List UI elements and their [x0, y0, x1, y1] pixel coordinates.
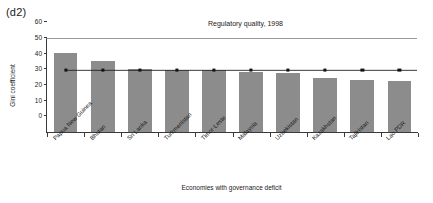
y-axis-tick: 50 [24, 28, 47, 46]
x-axis-tick-mark [307, 133, 308, 137]
x-axis-tick-mark [381, 133, 382, 137]
line-marker [287, 69, 290, 72]
y-axis-tick: 10 [24, 90, 47, 108]
y-axis-tick-mark [44, 21, 47, 22]
x-axis-tick-mark [344, 133, 345, 137]
x-axis-tick-mark [233, 133, 234, 137]
y-axis-tick-label: 10 [24, 97, 42, 104]
y-axis-tick: 0 [24, 106, 47, 124]
y-axis-tick-label: 60 [24, 18, 42, 25]
line-marker [249, 69, 252, 72]
y-axis-tick-label: 40 [24, 50, 42, 57]
plot-area: 0102030405060 [47, 39, 417, 133]
y-axis-label: Gini coefficient [7, 38, 19, 133]
y-axis-tick: 60 [24, 12, 47, 30]
x-axis-baseline [47, 132, 418, 133]
y-axis-tick: 30 [24, 59, 47, 77]
y-axis-tick: 40 [24, 43, 47, 61]
chart-title: Regulatory quality, 1998 [0, 20, 433, 27]
x-axis-tick-mark [47, 133, 48, 137]
line-series [47, 39, 417, 133]
y-axis-tick-label: 50 [24, 34, 42, 41]
line-marker [64, 69, 67, 72]
line-marker [361, 69, 364, 72]
x-axis-label: Economies with governance deficit [46, 184, 417, 191]
y-axis-tick-mark [44, 37, 47, 38]
x-axis-tick-mark [158, 133, 159, 137]
x-axis-tick-mark [270, 133, 271, 137]
plot-frame: 0102030405060 [46, 38, 417, 133]
y-axis-tick-label: 0 [24, 112, 42, 119]
x-axis-tick-mark [195, 133, 196, 137]
line-marker [175, 69, 178, 72]
y-axis-tick-label: 30 [24, 65, 42, 72]
line-marker [324, 69, 327, 72]
line-marker [212, 69, 215, 72]
x-axis-tick-mark [84, 133, 85, 137]
x-axis-tick-mark [418, 133, 419, 137]
line-marker [101, 69, 104, 72]
y-axis-tick-label: 20 [24, 81, 42, 88]
x-axis-tick-mark [121, 133, 122, 137]
line-marker [398, 69, 401, 72]
line-marker [138, 69, 141, 72]
y-axis-tick: 20 [24, 75, 47, 93]
